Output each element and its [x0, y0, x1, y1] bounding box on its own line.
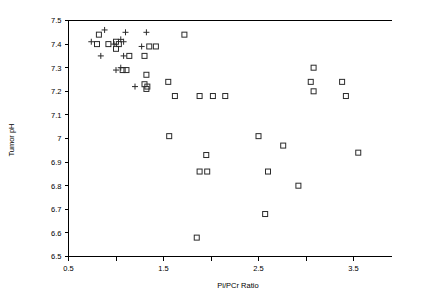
data-point-square-35	[296, 183, 301, 188]
axis-titles-group: Pi/PCr Ratio Tumor pH	[7, 123, 259, 290]
data-point-square-23	[172, 94, 177, 99]
data-point-square-8	[153, 44, 158, 49]
data-point-square-26	[223, 94, 228, 99]
data-point-square-2	[106, 42, 111, 47]
data-point-plus-2	[143, 29, 149, 35]
x-tick-label-6: 3.5	[348, 264, 358, 273]
data-point-plus-0	[102, 27, 108, 33]
data-point-square-19	[308, 79, 313, 84]
plot-canvas: 6.56.66.76.86.977.17.27.37.47.50.51.52.5…	[0, 0, 427, 306]
x-tick-label-4: 2.5	[253, 264, 263, 273]
data-point-square-10	[182, 32, 187, 37]
data-point-square-37	[194, 235, 199, 240]
x-tick-label-2: 1.5	[158, 264, 168, 273]
axes-group: 6.56.66.76.86.977.17.27.37.47.50.51.52.5…	[51, 16, 391, 272]
data-point-plus-3	[88, 39, 94, 45]
data-point-square-36	[263, 212, 268, 217]
data-point-square-6	[127, 53, 132, 58]
y-tick-label-2: 6.7	[51, 205, 61, 214]
data-point-plus-8	[98, 53, 104, 59]
y-tick-label-10: 7.5	[51, 16, 61, 25]
data-point-plus-1	[123, 29, 129, 35]
data-point-square-24	[197, 94, 202, 99]
data-point-plus-9	[121, 53, 127, 59]
y-axis-title: Tumor pH	[7, 123, 16, 156]
data-point-square-13	[144, 72, 149, 77]
data-point-square-34	[266, 169, 271, 174]
data-point-square-17	[166, 79, 171, 84]
data-point-square-29	[281, 143, 286, 148]
data-point-square-9	[142, 53, 147, 58]
x-axis-title: Pi/PCr Ratio	[217, 281, 258, 290]
x-tick-label-0: 0.5	[63, 264, 73, 273]
data-point-plus-12	[132, 84, 138, 90]
y-tick-label-8: 7.3	[51, 64, 61, 73]
data-point-square-7	[147, 44, 152, 49]
data-point-square-20	[340, 79, 345, 84]
scatter-plot-figure: 6.56.66.76.86.977.17.27.37.47.50.51.52.5…	[0, 0, 427, 306]
y-tick-label-3: 6.8	[51, 182, 61, 191]
data-points-group	[88, 27, 360, 240]
y-tick-label-7: 7.2	[51, 87, 61, 96]
data-point-square-33	[205, 169, 210, 174]
data-point-square-32	[197, 169, 202, 174]
y-tick-label-9: 7.4	[51, 40, 61, 49]
data-point-square-18	[311, 65, 316, 70]
data-point-square-25	[210, 94, 215, 99]
y-tick-label-1: 6.6	[51, 229, 61, 238]
data-point-square-31	[356, 150, 361, 155]
data-point-square-28	[256, 134, 261, 139]
data-point-square-1	[95, 42, 100, 47]
y-tick-label-5: 7	[57, 134, 61, 143]
data-point-plus-7	[139, 43, 145, 49]
data-point-square-30	[204, 153, 209, 158]
data-point-square-21	[311, 89, 316, 94]
data-point-square-22	[343, 94, 348, 99]
y-tick-label-4: 6.9	[51, 158, 61, 167]
data-point-square-0	[96, 32, 101, 37]
y-tick-label-0: 6.5	[51, 252, 61, 261]
y-tick-label-6: 7.1	[51, 111, 61, 120]
data-point-square-27	[167, 134, 172, 139]
